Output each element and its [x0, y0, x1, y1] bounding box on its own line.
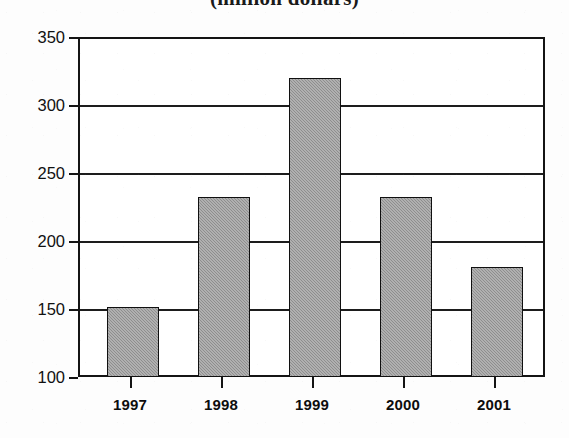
- y-axis-tick-300: [69, 105, 78, 107]
- x-axis-tick-2000: [403, 377, 405, 388]
- y-axis-tick-200: [69, 241, 78, 243]
- bar-2001[interactable]: [471, 267, 523, 377]
- y-axis-label-150: 150: [5, 300, 65, 319]
- x-axis-tick-1998: [221, 377, 223, 388]
- y-axis-label-200: 200: [5, 232, 65, 251]
- y-axis-tick-350: [69, 37, 78, 39]
- x-axis-label-1997: 1997: [85, 396, 175, 413]
- x-axis-tick-1997: [130, 377, 132, 388]
- x-axis-tick-1999: [312, 377, 314, 388]
- y-axis-tick-250: [69, 173, 78, 175]
- chart-title: (million dollars): [0, 0, 569, 11]
- bar-1997[interactable]: [107, 307, 159, 377]
- chart-page: (million dollars) 350 300 250 200 150 10…: [0, 0, 569, 438]
- y-axis-tick-150: [69, 309, 78, 311]
- bar-1999[interactable]: [289, 78, 341, 377]
- x-axis-tick-2001: [494, 377, 496, 388]
- y-axis-label-100: 100: [5, 368, 65, 387]
- y-axis-label-250: 250: [5, 164, 65, 183]
- x-axis-label-1998: 1998: [176, 396, 266, 413]
- plot-area: [78, 37, 545, 377]
- x-axis-label-1999: 1999: [267, 396, 357, 413]
- x-axis-label-2001: 2001: [449, 396, 539, 413]
- y-axis-label-350: 350: [5, 28, 65, 47]
- bar-1998[interactable]: [198, 197, 250, 377]
- bar-2000[interactable]: [380, 197, 432, 377]
- y-axis-tick-100: [69, 377, 78, 379]
- y-axis-label-300: 300: [5, 96, 65, 115]
- x-axis-label-2000: 2000: [358, 396, 448, 413]
